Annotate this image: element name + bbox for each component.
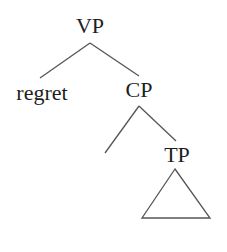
edge-vp-regret: [40, 43, 90, 78]
node-regret: regret: [16, 80, 67, 105]
edge-vp-cp: [90, 43, 139, 76]
node-cp: CP: [126, 77, 153, 102]
edge-cp-empty: [105, 106, 139, 153]
node-vp: VP: [76, 13, 104, 38]
syntax-tree-diagram: VP regret CP TP: [0, 0, 227, 252]
edge-cp-tp: [139, 106, 176, 141]
node-tp: TP: [164, 142, 190, 167]
tp-triangle: [142, 169, 210, 218]
